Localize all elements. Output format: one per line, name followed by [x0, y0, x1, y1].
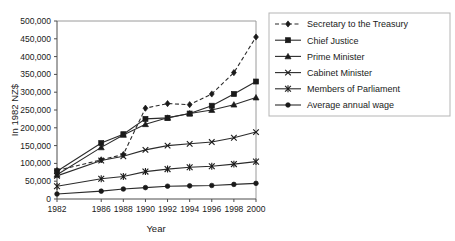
x-tick-label: 1988 [114, 204, 133, 214]
y-tick-label: 100,000 [20, 158, 51, 168]
axis-tick-marks [54, 21, 256, 202]
legend-label: Chief Justice [307, 36, 359, 46]
legend-marker-square-icon [286, 38, 291, 43]
y-axis-title: In 1982 NZ$ [9, 83, 20, 136]
series-6 [55, 181, 259, 196]
y-tick-label: 200,000 [20, 123, 51, 133]
legend-label: Cabinet Minister [307, 68, 372, 78]
y-tick-label: 350,000 [20, 69, 51, 79]
series-line [57, 98, 256, 175]
series-line [57, 37, 256, 171]
line-chart: 050,000100,000150,000200,000250,000300,0… [0, 0, 455, 241]
x-tick-label: 1994 [180, 204, 199, 214]
x-axis-tick-labels: 198219861988199019921994199619982000 [48, 204, 266, 214]
series-1 [55, 34, 259, 174]
y-tick-label: 150,000 [20, 141, 51, 151]
x-axis-title: Year [146, 223, 165, 234]
plot-frame [57, 21, 256, 199]
legend-label: Secretary to the Treasury [307, 19, 409, 29]
y-tick-label: 50,000 [25, 176, 51, 186]
y-axis-tick-labels: 050,000100,000150,000200,000250,000300,0… [20, 16, 51, 204]
series-markers [55, 79, 259, 174]
x-tick-label: 1996 [202, 204, 221, 214]
x-tick-label: 1998 [224, 204, 243, 214]
series-2 [55, 79, 259, 174]
series-line [57, 132, 256, 176]
chart-legend: Secretary to the TreasuryChief JusticePr… [269, 13, 450, 116]
legend-label: Members of Parliament [307, 84, 401, 94]
y-tick-label: 0 [46, 194, 51, 204]
y-tick-label: 500,000 [20, 16, 51, 26]
x-tick-label: 2000 [247, 204, 266, 214]
series-markers [55, 34, 259, 174]
legend-label: Average annual wage [307, 100, 394, 110]
series-line [57, 183, 256, 194]
y-tick-label: 250,000 [20, 105, 51, 115]
series-line [57, 82, 256, 172]
series-group [54, 34, 259, 196]
chart-figure: 050,000100,000150,000200,000250,000300,0… [0, 0, 455, 241]
legend-marker-circle-icon [286, 103, 291, 108]
x-tick-label: 1992 [158, 204, 177, 214]
y-tick-label: 450,000 [20, 34, 51, 44]
series-markers [55, 181, 259, 196]
y-tick-label: 300,000 [20, 87, 51, 97]
y-tick-label: 400,000 [20, 52, 51, 62]
x-tick-label: 1990 [136, 204, 155, 214]
x-tick-label: 1986 [92, 204, 111, 214]
x-tick-label: 1982 [48, 204, 67, 214]
legend-label: Prime Minister [307, 52, 365, 62]
